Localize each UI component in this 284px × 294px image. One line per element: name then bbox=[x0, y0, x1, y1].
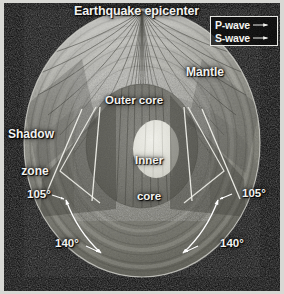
diagram-plate: Earthquake epicenter Mantle Outer core I… bbox=[4, 3, 280, 291]
figure-frame: Earthquake epicenter Mantle Outer core I… bbox=[0, 0, 284, 294]
legend-item-s-wave: S-wave bbox=[215, 31, 274, 44]
globe-group bbox=[22, 9, 262, 291]
surface-grain bbox=[24, 9, 260, 277]
arrow-right-icon bbox=[253, 34, 274, 42]
wave-legend: P-wave S-wave bbox=[210, 16, 278, 46]
earth-cross-section-diagram bbox=[4, 3, 280, 291]
arrow-right-icon bbox=[253, 21, 274, 29]
legend-label-p-wave: P-wave bbox=[215, 19, 250, 31]
legend-item-p-wave: P-wave bbox=[215, 18, 274, 31]
legend-label-s-wave: S-wave bbox=[215, 32, 250, 44]
